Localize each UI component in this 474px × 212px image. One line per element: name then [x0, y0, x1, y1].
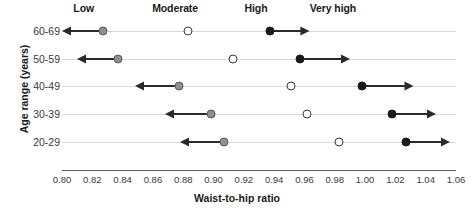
age-range-label-60-69: 60-69: [18, 25, 60, 37]
range-arrow-right: [362, 79, 414, 93]
x-tick-label: 1.02: [386, 174, 405, 185]
data-point-very-high: [388, 110, 397, 119]
range-arrow-right: [392, 107, 436, 121]
x-tick-label: 1.06: [447, 174, 466, 185]
x-tick-label: 0.88: [174, 174, 193, 185]
age-range-label-40-49: 40-49: [18, 80, 60, 92]
x-tick-label: 0.92: [235, 174, 254, 185]
x-tick-label: 0.82: [83, 174, 102, 185]
risk-band-label-high: High: [245, 2, 268, 14]
data-point-low: [174, 82, 183, 91]
data-point-very-high: [265, 27, 274, 36]
range-arrow-right: [270, 24, 309, 38]
data-point-very-high: [295, 55, 304, 64]
x-tick-label: 0.96: [295, 174, 314, 185]
x-tick-label: 0.84: [113, 174, 132, 185]
data-point-moderate: [286, 82, 295, 91]
x-axis-line: [62, 170, 456, 171]
risk-band-label-low: Low: [73, 2, 94, 14]
range-arrow-left: [165, 107, 210, 121]
x-tick-label: 0.94: [265, 174, 284, 185]
risk-band-label-moderate: Moderate: [152, 2, 198, 14]
age-range-label-20-29: 20-29: [18, 136, 60, 148]
x-tick-label: 0.80: [53, 174, 72, 185]
range-arrow-left: [62, 24, 103, 38]
x-tick-label: 0.90: [204, 174, 223, 185]
x-tick-label: 1.04: [416, 174, 435, 185]
age-range-label-50-59: 50-59: [18, 53, 60, 65]
data-point-low: [220, 138, 229, 147]
waist-to-hip-ratio-chart: LowModerateHighVery high Age range (year…: [0, 0, 474, 212]
x-tick-label: 1.00: [356, 174, 375, 185]
data-point-moderate: [183, 27, 192, 36]
gridline-row: [62, 142, 456, 143]
risk-band-label-very-high: Very high: [310, 2, 356, 14]
data-point-moderate: [229, 55, 238, 64]
x-axis-title: Waist-to-hip ratio: [0, 192, 474, 204]
data-point-moderate: [303, 110, 312, 119]
data-point-low: [98, 27, 107, 36]
data-point-moderate: [335, 138, 344, 147]
data-point-low: [114, 55, 123, 64]
gridline-row: [62, 31, 456, 32]
range-arrow-left: [135, 79, 179, 93]
range-arrow-right: [300, 52, 350, 66]
x-tick-label: 0.86: [144, 174, 163, 185]
x-tick-label: 0.98: [326, 174, 345, 185]
range-arrow-right: [406, 135, 450, 149]
range-arrow-left: [77, 52, 118, 66]
age-range-label-30-39: 30-39: [18, 108, 60, 120]
data-point-low: [206, 110, 215, 119]
range-arrow-left: [180, 135, 224, 149]
data-point-very-high: [401, 138, 410, 147]
data-point-very-high: [358, 82, 367, 91]
